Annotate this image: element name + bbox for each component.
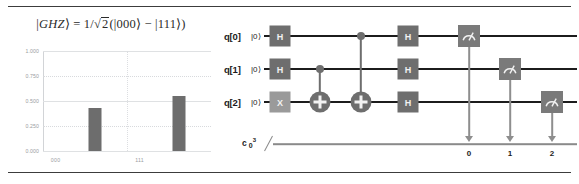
gate-x-q2[interactable]: X — [270, 92, 291, 113]
y-axis-tick-label: 0.250 — [26, 123, 39, 129]
y-axis-tick-label: 1.000 — [26, 48, 39, 54]
title-rparen: ) — [181, 17, 185, 31]
qubit-state-q1: |0⟩ — [251, 65, 261, 74]
figure-root: |GHZ⟩ = 1/√2(|000⟩ − |111⟩) 0.0000.2500.… — [0, 0, 579, 184]
creg-width: 3 — [253, 137, 256, 143]
y-axis-tick-label: 0.750 — [26, 73, 39, 79]
cnot1-target-q2[interactable] — [310, 92, 331, 113]
cnot1-plus-horizontal — [314, 101, 327, 103]
y-axis-tick-label: 0.000 — [26, 148, 39, 154]
gate-h2-q1[interactable]: H — [398, 59, 419, 80]
title-minus: − — [144, 17, 151, 31]
classical-bit-2: 2 — [550, 149, 554, 158]
gate-h2-q0[interactable]: H — [398, 26, 419, 47]
x-axis-tick-label: 000 — [51, 157, 61, 163]
measure-arrow-q1 — [506, 136, 514, 142]
title-radicand: 2 — [101, 17, 109, 31]
gate-h2-q2[interactable]: H — [398, 92, 419, 113]
gate-h-q0[interactable]: H — [270, 26, 291, 47]
category-separator — [127, 51, 129, 151]
title-state-name: GHZ — [39, 17, 65, 31]
title-equals: = — [73, 17, 80, 31]
title-radical-sign: √ — [94, 17, 101, 31]
measure-icon — [501, 60, 519, 78]
quantum-wire-q1 — [264, 68, 577, 70]
qubit-label-q0: q[0] — [224, 31, 241, 42]
quantum-circuit-panel: q[0] q[1] q[2] |0⟩ |0⟩ |0⟩ c03 H H X — [222, 8, 579, 176]
gate-measure-q2[interactable] — [541, 91, 563, 113]
qubit-label-q2: q[2] — [224, 97, 241, 108]
title-ket-close: ⟩ — [65, 17, 70, 31]
cnot2-plus-horizontal — [355, 101, 368, 103]
measure-arrow-q0 — [465, 136, 473, 142]
bar[interactable] — [173, 96, 186, 151]
gate-measure-q0[interactable] — [458, 25, 480, 47]
classical-register-label: c03 — [242, 137, 256, 149]
y-axis-tick-label: 0.500 — [26, 98, 39, 104]
classical-bit-1: 1 — [508, 149, 512, 158]
top-divider — [8, 6, 571, 7]
qubit-label-q1: q[1] — [224, 64, 241, 75]
gridline — [43, 151, 211, 152]
title-ket-111: |111⟩ — [155, 17, 181, 31]
classical-bit-0: 0 — [467, 149, 471, 158]
measure-link-q0 — [468, 36, 470, 139]
histogram-panel: |GHZ⟩ = 1/√2(|000⟩ − |111⟩) 0.0000.2500.… — [0, 10, 222, 168]
quantum-wire-q0 — [264, 35, 577, 37]
measure-icon — [460, 27, 478, 45]
gate-h-q1[interactable]: H — [270, 59, 291, 80]
cnot1-control-dot-q1[interactable] — [316, 65, 324, 73]
title-coefficient: 1/ — [84, 17, 94, 31]
histogram-plot-area: 0.0000.2500.5000.7501.000 000111 — [43, 51, 211, 151]
cnot2-control-dot-q0[interactable] — [357, 32, 365, 40]
qubit-state-q0: |0⟩ — [251, 32, 261, 41]
classical-wire-slash — [264, 136, 273, 152]
title-ket-000: |000⟩ — [114, 17, 141, 31]
qubit-state-q2: |0⟩ — [251, 98, 261, 107]
classical-wire — [273, 143, 577, 145]
creg-index: 0 — [247, 142, 253, 149]
gate-measure-q1[interactable] — [499, 58, 521, 80]
bar[interactable] — [89, 108, 102, 151]
histogram-title: |GHZ⟩ = 1/√2(|000⟩ − |111⟩) — [0, 16, 222, 32]
cnot2-target-q2[interactable] — [351, 92, 372, 113]
measure-arrow-q2 — [548, 136, 556, 142]
title-radical-group: √2 — [94, 16, 110, 32]
x-axis-tick-label: 111 — [135, 157, 144, 163]
measure-icon — [543, 93, 561, 111]
